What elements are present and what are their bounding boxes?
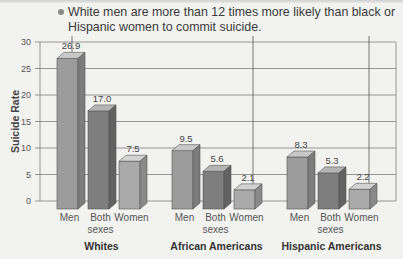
category-label: sexes bbox=[317, 224, 343, 235]
category-label: Both bbox=[320, 212, 341, 223]
group-label: Whites bbox=[84, 240, 119, 252]
category-label: Women bbox=[344, 212, 378, 223]
bar-side bbox=[78, 52, 85, 209]
bar-side bbox=[339, 167, 346, 209]
category-label: Men bbox=[60, 212, 79, 223]
value-label: 5.3 bbox=[325, 155, 338, 166]
y-tick-label: 5 bbox=[26, 170, 31, 180]
value-label: 2.2 bbox=[356, 171, 369, 182]
value-label: 9.5 bbox=[179, 133, 192, 144]
y-tick-label: 0 bbox=[26, 196, 31, 206]
category-label: Both bbox=[205, 212, 226, 223]
category-label: sexes bbox=[202, 224, 228, 235]
value-label: 8.3 bbox=[294, 139, 307, 150]
category-label: Men bbox=[175, 212, 194, 223]
bar-front bbox=[318, 173, 339, 209]
bar-front bbox=[172, 151, 193, 209]
category-label: Both bbox=[90, 212, 111, 223]
y-tick-label: 20 bbox=[21, 90, 31, 100]
value-label: 5.6 bbox=[210, 153, 223, 164]
y-axis-label: Suicide Rate bbox=[9, 90, 21, 153]
value-label: 26.9 bbox=[62, 40, 81, 51]
category-label: Men bbox=[290, 212, 309, 223]
value-label: 7.5 bbox=[126, 143, 139, 154]
bar-side bbox=[224, 165, 231, 209]
bar-front bbox=[234, 190, 255, 209]
category-label: sexes bbox=[87, 224, 113, 235]
y-tick-label: 30 bbox=[21, 37, 31, 47]
bar-front bbox=[119, 161, 140, 209]
bar-front bbox=[57, 58, 78, 209]
category-label: Women bbox=[229, 212, 263, 223]
bar-front bbox=[203, 171, 224, 209]
group-label: Hispanic Americans bbox=[282, 240, 382, 252]
bar-side bbox=[308, 151, 315, 209]
bar-front bbox=[349, 189, 370, 209]
y-tick-label: 10 bbox=[21, 143, 31, 153]
bar-front bbox=[88, 111, 109, 209]
bar-front bbox=[287, 157, 308, 209]
y-tick-label: 15 bbox=[21, 117, 31, 127]
group-label: African Americans bbox=[170, 240, 263, 252]
value-label: 17.0 bbox=[93, 93, 112, 104]
bar-side bbox=[109, 105, 116, 209]
category-label: Women bbox=[114, 212, 148, 223]
bar-chart: 051015202530Suicide Rate26.9Men17.0Boths… bbox=[0, 0, 403, 259]
value-label: 2.1 bbox=[241, 172, 254, 183]
y-tick-label: 25 bbox=[21, 64, 31, 74]
bar-side bbox=[140, 155, 147, 209]
bar-side bbox=[193, 145, 200, 209]
